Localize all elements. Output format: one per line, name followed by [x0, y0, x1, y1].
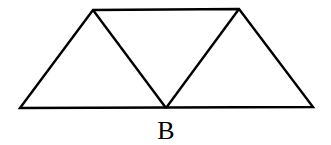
trapezoid-diagram: B	[0, 0, 331, 145]
outer-trapezoid	[20, 9, 313, 108]
segment-topleft-B	[93, 10, 166, 108]
segment-B-topright	[166, 9, 239, 108]
point-label-b: B	[157, 116, 174, 145]
